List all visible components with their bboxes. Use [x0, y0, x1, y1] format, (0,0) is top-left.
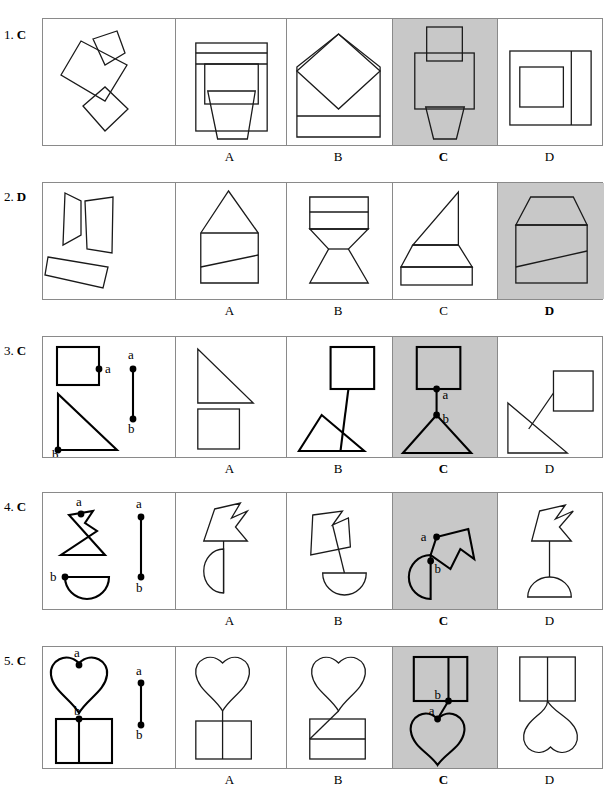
point-a-dot: [96, 366, 103, 373]
question-row-2: 2.D: [0, 182, 610, 322]
connector-a-label: a: [128, 347, 134, 362]
row-5-option-a-label: A: [174, 771, 285, 789]
row-1-cell-c: [392, 19, 497, 145]
point-a-dot: [433, 534, 440, 541]
row-1-option-labels: A B C D: [42, 148, 603, 168]
question-row-1: 1.C: [0, 18, 610, 166]
row-4-cell-a: [175, 493, 286, 609]
row-2-frame: [42, 182, 603, 300]
point-a-label: a: [76, 494, 82, 509]
point-a-dot: [78, 511, 85, 518]
question-row-4: 4.C a b a b: [0, 492, 610, 632]
row-1-label: 1.C: [4, 28, 40, 42]
row-1-option-c-label: C: [391, 148, 496, 166]
point-a-label: a: [74, 647, 80, 660]
row-5-frame: a b a b: [42, 646, 603, 769]
row-1-frame: [42, 18, 603, 146]
row-1-answer: C: [17, 27, 26, 42]
point-a-label: a: [443, 387, 449, 402]
row-2-option-d-label: D: [496, 302, 603, 320]
row-4-option-labels: A B C D: [42, 612, 603, 632]
row-3-cell-b: [286, 337, 392, 457]
point-a-label: a: [421, 529, 427, 544]
row-5-cell-stimulus: a b a b: [43, 647, 175, 768]
row-2-label: 2.D: [4, 190, 40, 204]
connector-a-label: a: [136, 663, 142, 678]
point-b-label: b: [52, 447, 59, 457]
row-1-cell-b: [286, 19, 392, 145]
point-b-label: b: [435, 561, 441, 576]
point-b-label: b: [50, 569, 57, 584]
row-1-option-a-label: A: [174, 148, 285, 166]
row-3-cell-d: [497, 337, 604, 457]
row-2-cell-stimulus: [43, 183, 175, 299]
point-a-dot: [433, 386, 440, 393]
row-1-cell-stimulus: [43, 19, 175, 145]
row-4-cell-d: [497, 493, 604, 609]
row-3-cell-a: [175, 337, 286, 457]
row-2-cell-b: [286, 183, 392, 299]
point-b-dot: [62, 574, 69, 581]
row-2-cell-d: [497, 183, 604, 299]
row-5-cell-b: [286, 647, 392, 768]
point-b-label: b: [435, 687, 441, 702]
row-3-option-labels: A B C D: [42, 460, 603, 480]
row-5-label: 5.C: [4, 654, 40, 668]
row-4-number: 4.: [4, 499, 14, 514]
row-5-answer: C: [17, 653, 26, 668]
row-1-number: 1.: [4, 27, 14, 42]
row-5-cell-a: [175, 647, 286, 768]
row-5-number: 5.: [4, 653, 14, 668]
row-1-option-d-label: D: [496, 148, 603, 166]
row-2-option-labels: A B C D: [42, 302, 603, 322]
row-3-option-b-label: B: [285, 460, 391, 478]
row-1-cell-d: [497, 19, 604, 145]
row-2-option-c-label: C: [391, 302, 496, 320]
row-4-label: 4.C: [4, 500, 40, 514]
row-2-cell-c: [392, 183, 497, 299]
row-3-option-d-label: D: [496, 460, 603, 478]
connector-b-label: b: [136, 727, 143, 742]
point-b-label: b: [74, 703, 81, 718]
row-3-answer: C: [17, 343, 26, 358]
row-2-number: 2.: [4, 189, 14, 204]
row-4-option-a-label: A: [174, 612, 285, 630]
row-4-option-d-label: D: [496, 612, 603, 630]
connector-a-dot: [130, 366, 137, 373]
row-3-option-a-label: A: [174, 460, 285, 478]
row-5-option-c-label: C: [391, 771, 496, 789]
row-3-cell-stimulus: a b a b: [43, 337, 175, 457]
row-3-cell-c: a b: [392, 337, 497, 457]
row-1-cell-a: [175, 19, 286, 145]
row-3-frame: a b a b: [42, 336, 603, 458]
row-5-cell-d: [497, 647, 604, 768]
row-5-option-d-label: D: [496, 771, 603, 789]
connector-a-label: a: [136, 496, 142, 511]
row-2-answer: D: [17, 189, 26, 204]
row-5-option-b-label: B: [285, 771, 391, 789]
row-5-option-labels: A B C D: [42, 771, 603, 791]
row-5-cell-c: b a: [392, 647, 497, 768]
row-2-cell-a: [175, 183, 286, 299]
row-2-option-a-label: A: [174, 302, 285, 320]
row-4-option-c-label: C: [391, 612, 496, 630]
point-a-label: a: [105, 361, 111, 376]
row-4-option-b-label: B: [285, 612, 391, 630]
connector-b-label: b: [128, 421, 135, 436]
connector-a-dot: [138, 514, 145, 521]
row-1-option-b-label: B: [285, 148, 391, 166]
row-3-option-c-label: C: [391, 460, 496, 478]
row-4-cell-b: [286, 493, 392, 609]
row-3-number: 3.: [4, 343, 14, 358]
connector-a-dot: [138, 680, 145, 687]
connector-b-label: b: [136, 580, 143, 595]
row-4-answer: C: [17, 499, 26, 514]
question-row-3: 3.C a b a b: [0, 336, 610, 478]
row-4-cell-c: a b: [392, 493, 497, 609]
row-4-cell-stimulus: a b a b: [43, 493, 175, 609]
row-2-option-b-label: B: [285, 302, 391, 320]
worksheet-page: 1.C: [0, 0, 610, 794]
row-3-label: 3.C: [4, 344, 40, 358]
question-row-5: 5.C a b a b: [0, 646, 610, 791]
row-4-frame: a b a b: [42, 492, 603, 610]
